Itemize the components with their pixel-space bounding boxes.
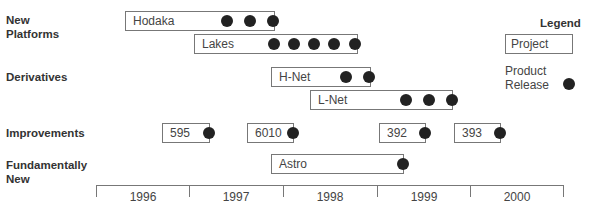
legend-release-dot [563,78,575,90]
project-label: 6010 [255,126,282,140]
row-label-new-platforms: New Platforms [6,13,59,41]
release-dot [400,94,412,106]
release-dot [267,15,279,27]
project-label: Lakes [202,37,234,51]
release-dot [308,38,320,50]
project-label: Hodaka [133,14,174,28]
release-dot [268,38,280,50]
project-label: 595 [170,126,190,140]
row-label-text: Fundamentally New [6,159,87,185]
project-label: H-Net [279,70,310,84]
release-dot [349,38,361,50]
row-label-fundamentally-new: Fundamentally New [6,158,87,186]
row-label-text: Improvements [6,127,85,139]
timeline-axis [96,185,564,186]
release-dot [288,38,300,50]
year-label: 1996 [96,190,190,204]
legend-release-label: Product Release [505,64,549,92]
row-label-text: Derivatives [6,71,67,83]
release-dot [363,71,375,83]
release-dot [340,71,352,83]
project-label: L-Net [318,93,347,107]
release-dot [419,127,431,139]
project-bar-h-net: H-Net [271,67,371,87]
release-dot [446,94,458,106]
project-label: Astro [279,157,307,171]
release-dot [494,127,506,139]
release-dot [423,94,435,106]
project-bar-astro: Astro [271,154,404,174]
release-dot [328,38,340,50]
project-label: 392 [387,126,407,140]
year-label: 1998 [283,190,377,204]
row-label-improvements: Improvements [6,126,85,140]
legend-project-swatch: Project [505,34,573,54]
release-dot [203,127,215,139]
year-label: 1997 [189,190,283,204]
release-dot [287,127,299,139]
year-label: 2000 [470,190,564,204]
year-label: 1999 [377,190,471,204]
project-label: 393 [462,126,482,140]
legend-project-label: Project [511,37,548,51]
legend-title: Legend [540,17,581,29]
release-dot [244,15,256,27]
row-label-derivatives: Derivatives [6,70,67,84]
row-label-text: New Platforms [6,14,59,40]
release-dot [221,15,233,27]
release-dot [397,158,409,170]
